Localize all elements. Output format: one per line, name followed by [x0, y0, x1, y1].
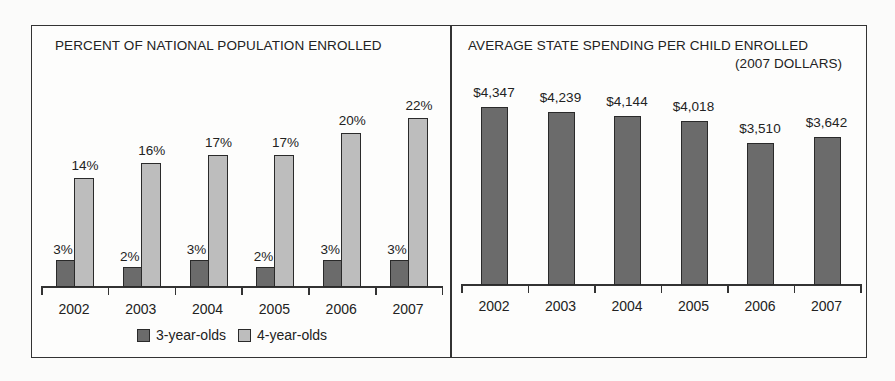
- bar-spending-2004: [614, 116, 641, 285]
- bar-4-year-olds-2006: [341, 133, 361, 287]
- bar-3-year-olds-2003: [123, 267, 143, 287]
- value-label-spending: $4,018: [664, 99, 724, 114]
- bar-3-year-olds-2005: [256, 267, 276, 287]
- x-label-year: 2003: [108, 301, 174, 317]
- value-label-spending: $4,144: [597, 94, 657, 109]
- x-label-year: 2007: [794, 298, 860, 314]
- x-label-year: 2003: [528, 298, 594, 314]
- value-label-4-year-olds: 14%: [67, 158, 103, 173]
- value-label-spending: $4,239: [531, 90, 591, 105]
- panel-divider: [450, 25, 452, 358]
- value-label-4-year-olds: 22%: [401, 98, 437, 113]
- value-label-4-year-olds: 20%: [334, 113, 370, 128]
- legend-label-4-year-olds: 4-year-olds: [257, 327, 327, 343]
- left-axis-tick: [442, 286, 444, 295]
- right-axis-tick: [794, 284, 796, 293]
- value-label-3-year-olds: 2%: [251, 249, 275, 264]
- left-chart-title: PERCENT OF NATIONAL POPULATION ENROLLED: [55, 38, 382, 53]
- value-label-4-year-olds: 17%: [267, 135, 303, 150]
- x-label-year: 2005: [241, 301, 307, 317]
- bar-3-year-olds-2006: [323, 260, 343, 287]
- left-axis-tick: [241, 286, 243, 295]
- bar-4-year-olds-2005: [274, 155, 294, 287]
- value-label-spending: $4,347: [464, 85, 524, 100]
- right-chart-title: AVERAGE STATE SPENDING PER CHILD ENROLLE…: [468, 38, 808, 53]
- bar-4-year-olds-2004: [208, 155, 228, 287]
- bar-spending-2006: [747, 143, 774, 285]
- bar-4-year-olds-2007: [408, 118, 428, 287]
- right-chart-subtitle: (2007 DOLLARS): [735, 56, 842, 71]
- bar-spending-2005: [681, 121, 708, 285]
- value-label-spending: $3,510: [730, 121, 790, 136]
- x-label-year: 2005: [661, 298, 727, 314]
- legend-swatch-light: [238, 329, 251, 342]
- legend-item-4-year-olds: 4-year-olds: [238, 327, 327, 343]
- legend-label-3-year-olds: 3-year-olds: [156, 327, 226, 343]
- value-label-3-year-olds: 2%: [118, 249, 142, 264]
- bar-spending-2007: [814, 137, 841, 285]
- bar-4-year-olds-2002: [74, 178, 94, 287]
- value-label-4-year-olds: 17%: [201, 135, 237, 150]
- right-axis-tick: [727, 284, 729, 293]
- legend-item-3-year-olds: 3-year-olds: [137, 327, 226, 343]
- bar-4-year-olds-2003: [141, 163, 161, 287]
- legend: 3-year-olds 4-year-olds: [137, 327, 339, 343]
- x-label-year: 2004: [594, 298, 660, 314]
- right-axis-tick: [461, 284, 463, 293]
- legend-swatch-dark: [137, 329, 150, 342]
- left-axis-tick: [375, 286, 377, 295]
- bar-spending-2002: [481, 107, 508, 285]
- x-label-year: 2004: [175, 301, 241, 317]
- left-axis-tick: [308, 286, 310, 295]
- value-label-3-year-olds: 3%: [385, 242, 409, 257]
- value-label-4-year-olds: 16%: [134, 143, 170, 158]
- value-label-3-year-olds: 3%: [51, 242, 75, 257]
- value-label-spending: $3,642: [797, 115, 857, 130]
- x-label-year: 2002: [41, 301, 107, 317]
- left-axis-tick: [175, 286, 177, 295]
- x-label-year: 2007: [375, 301, 441, 317]
- bar-3-year-olds-2004: [190, 260, 210, 287]
- value-label-3-year-olds: 3%: [318, 242, 342, 257]
- right-axis-tick: [661, 284, 663, 293]
- right-axis-tick: [528, 284, 530, 293]
- left-axis-tick: [108, 286, 110, 295]
- bar-3-year-olds-2007: [390, 260, 410, 287]
- x-label-year: 2006: [727, 298, 793, 314]
- right-axis-tick: [860, 284, 862, 293]
- x-label-year: 2002: [461, 298, 527, 314]
- right-axis-tick: [594, 284, 596, 293]
- x-label-year: 2006: [308, 301, 374, 317]
- bar-3-year-olds-2002: [56, 260, 76, 287]
- left-axis-tick: [41, 286, 43, 295]
- value-label-3-year-olds: 3%: [185, 242, 209, 257]
- bar-spending-2003: [548, 112, 575, 285]
